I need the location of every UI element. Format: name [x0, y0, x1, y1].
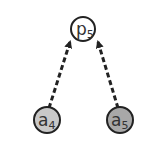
node-a4: a4 [34, 107, 60, 133]
node-a5: a5 [107, 107, 133, 133]
diagram-canvas: p5 a4 a5 [0, 0, 155, 149]
edge-a4-to-p5 [49, 42, 70, 108]
edge-a5-to-p5 [98, 42, 118, 108]
node-p5: p5 [71, 17, 95, 41]
